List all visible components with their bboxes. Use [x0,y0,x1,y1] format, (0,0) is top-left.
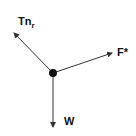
applied-force-arrow [53,53,112,73]
body-dot [49,69,57,77]
tension-arrow [14,33,53,73]
free-body-diagram: Tnr F* W [0,0,136,136]
tension-label: Tnr [18,15,35,30]
weight-label: W [64,115,75,127]
applied-force-label: F* [117,46,129,58]
